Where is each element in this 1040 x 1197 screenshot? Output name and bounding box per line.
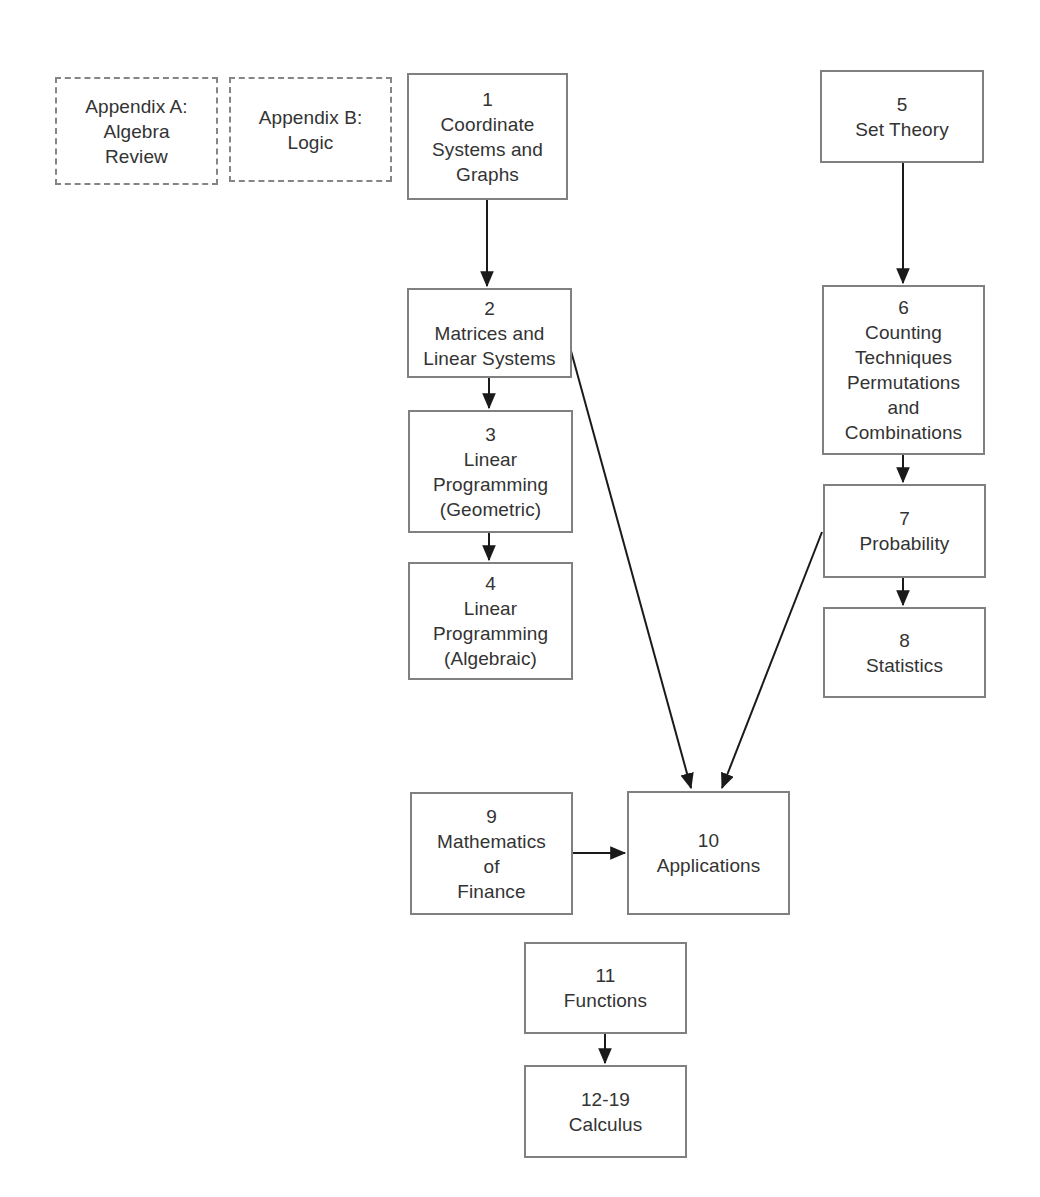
node-label: Appendix B: Logic (255, 105, 367, 155)
node-ch1[interactable]: 1 Coordinate Systems and Graphs (407, 73, 568, 200)
node-ch6[interactable]: 6 Counting Techniques Permutations and C… (822, 285, 985, 455)
edge-ch7-to-ch10 (722, 532, 822, 788)
node-ch3[interactable]: 3 Linear Programming (Geometric) (408, 410, 573, 533)
node-label: Appendix A: Algebra Review (81, 94, 192, 169)
node-ch10[interactable]: 10 Applications (627, 791, 790, 915)
node-ch12-19[interactable]: 12-19 Calculus (524, 1065, 687, 1158)
node-label: 11 Functions (560, 963, 651, 1013)
node-label: 8 Statistics (862, 628, 947, 678)
node-ch2[interactable]: 2 Matrices and Linear Systems (407, 288, 572, 378)
node-ch8[interactable]: 8 Statistics (823, 607, 986, 698)
node-appendix-b[interactable]: Appendix B: Logic (229, 77, 392, 182)
node-label: 5 Set Theory (851, 92, 953, 142)
node-appendix-a[interactable]: Appendix A: Algebra Review (55, 77, 218, 185)
node-label: 2 Matrices and Linear Systems (419, 296, 559, 371)
node-label: 1 Coordinate Systems and Graphs (428, 87, 547, 187)
node-label: 3 Linear Programming (Geometric) (429, 422, 552, 522)
node-ch4[interactable]: 4 Linear Programming (Algebraic) (408, 562, 573, 680)
node-label: 6 Counting Techniques Permutations and C… (841, 295, 966, 445)
node-label: 10 Applications (653, 828, 765, 878)
node-label: 12-19 Calculus (565, 1087, 647, 1137)
chapter-dependency-diagram: Appendix A: Algebra ReviewAppendix B: Lo… (0, 0, 1040, 1197)
edge-ch2-to-ch10 (568, 340, 691, 788)
node-ch9[interactable]: 9 Mathematics of Finance (410, 792, 573, 915)
node-ch7[interactable]: 7 Probability (823, 484, 986, 578)
node-label: 9 Mathematics of Finance (433, 804, 550, 904)
node-label: 4 Linear Programming (Algebraic) (429, 571, 552, 671)
node-label: 7 Probability (856, 506, 954, 556)
node-ch5[interactable]: 5 Set Theory (820, 70, 984, 163)
node-ch11[interactable]: 11 Functions (524, 942, 687, 1034)
